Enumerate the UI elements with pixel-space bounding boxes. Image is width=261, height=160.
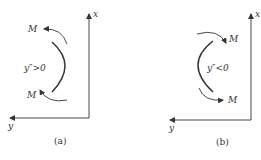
moment-label-bottom: M xyxy=(227,95,238,105)
panel-a: x y M M y″>0 (a) xyxy=(7,9,98,146)
moment-label-top: M xyxy=(27,24,38,34)
x-axis-label: x xyxy=(93,9,98,19)
curvature-label: y″<0 xyxy=(206,63,229,73)
moment-arrow-top xyxy=(44,29,67,44)
panel-caption: (a) xyxy=(54,136,66,146)
bending-curvature-diagram: x y M M y″>0 (a) x y M M y″<0 (b) xyxy=(0,0,261,160)
moment-label-bottom: M xyxy=(26,90,37,100)
panel-b: x y M M y″<0 (b) xyxy=(168,9,260,147)
moment-arrow-bottom xyxy=(40,90,67,101)
deflection-curve xyxy=(52,42,65,92)
y-axis-label: y xyxy=(168,123,175,133)
moment-label-top: M xyxy=(228,34,239,44)
x-axis-label: x xyxy=(255,9,260,19)
y-axis-label: y xyxy=(7,121,14,131)
panel-caption: (b) xyxy=(216,137,229,147)
curvature-label: y″>0 xyxy=(23,63,46,73)
